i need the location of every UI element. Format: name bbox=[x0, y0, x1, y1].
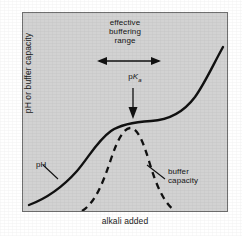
y-axis-title: pH or buffer capacity bbox=[23, 3, 33, 143]
pka-label: pKa bbox=[115, 73, 155, 83]
effective-range-arrow bbox=[97, 57, 161, 65]
buffer-label-line1: buffer bbox=[168, 167, 189, 176]
plot-area: effective buffering range pKa pH buffer … bbox=[22, 12, 228, 212]
ph-curve-label: pH bbox=[36, 161, 58, 170]
range-label-line3: range bbox=[115, 36, 136, 45]
buffer-capacity-curve bbox=[82, 128, 175, 211]
effective-range-label: effective buffering range bbox=[75, 19, 175, 46]
x-axis-title: alkali added bbox=[22, 216, 228, 226]
range-label-line1: effective bbox=[110, 18, 141, 27]
pka-arrow bbox=[129, 88, 138, 119]
buffer-capacity-label: buffer capacity bbox=[168, 168, 220, 186]
buffer-label-line2: capacity bbox=[168, 176, 198, 185]
buffer-capacity-figure: effective buffering range pKa pH buffer … bbox=[0, 0, 242, 236]
range-label-line2: buffering bbox=[109, 27, 141, 36]
pka-subscript: a bbox=[138, 77, 141, 83]
buffer-leader-line bbox=[147, 165, 165, 179]
